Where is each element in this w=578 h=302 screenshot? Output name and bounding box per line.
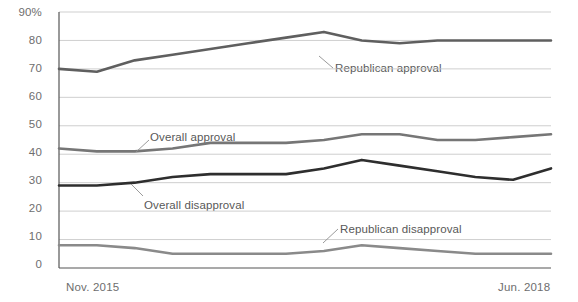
leader-line [323, 229, 338, 243]
series-line-republican-disapproval [59, 245, 551, 254]
chart-plot-area [0, 0, 578, 302]
series-line-overall-approval [59, 134, 551, 151]
approval-line-chart: 90% 80 70 60 50 40 30 20 10 0 Nov. 2015 … [0, 0, 578, 302]
leader-line [131, 184, 143, 196]
series-lines-group [59, 32, 551, 254]
series-line-overall-disapproval [59, 160, 551, 186]
leader-line [319, 56, 333, 68]
gridlines-group [59, 12, 551, 240]
series-line-republican-approval [59, 32, 551, 72]
